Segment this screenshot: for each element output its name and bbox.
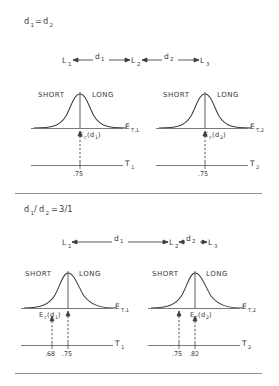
route-node-l3-base: L — [200, 56, 205, 65]
section-equal: d 1 = d 2 L 1 d 1 L 2 d 2 — [24, 16, 264, 178]
route-node-l1-base: L — [62, 56, 67, 65]
peak-annotation — [66, 311, 70, 342]
criterion-label-close: ) — [98, 131, 101, 139]
category-short-label: SHORT — [25, 270, 52, 278]
route-node-l3-sub: 3 — [206, 61, 209, 67]
condition-d2-sub: 2 — [46, 210, 50, 216]
route-segment-d1-arrowhead-left — [73, 58, 78, 62]
route-segment-d1-arrowhead-right — [163, 240, 168, 244]
expected-time-axis-label-sub: T,1 — [120, 307, 129, 313]
category-short-label: SHORT — [163, 91, 190, 99]
condition-operator: = — [51, 204, 58, 214]
criterion-annotation: E c ( d 1 ) — [39, 311, 61, 342]
route-node-l3-base: L — [208, 238, 213, 247]
criterion-annotation: E c ( d 1 ) — [78, 131, 101, 162]
panel-unequal-left: SHORT LONG E T,1 E c ( d 1 ) — [21, 270, 129, 358]
route-segment-d1-base: d — [95, 52, 100, 61]
panel-unequal-right: SHORT LONG E T,2 E c ( d 2 ) — [148, 270, 256, 358]
time-axis-label-base: T — [249, 159, 255, 168]
route-diagram-equal: L 1 d 1 L 2 d 2 L 3 — [62, 52, 209, 67]
criterion-label-close: ) — [223, 131, 226, 139]
condition-operator: = — [35, 16, 42, 26]
time-axis-tick-label-first: .75 — [172, 350, 182, 358]
expected-time-axis-label-sub: T,1 — [130, 127, 139, 133]
route-segment-d1-sub: 1 — [101, 56, 104, 62]
route-segment-d2-arrowhead-right — [202, 240, 207, 244]
condition-d2-base: d — [43, 16, 48, 26]
condition-d2-sub: 2 — [50, 22, 54, 28]
category-long-label: LONG — [92, 91, 114, 99]
criterion-label-e: E — [39, 311, 43, 319]
category-long-label: LONG — [206, 270, 228, 278]
route-segment-d1-base: d — [114, 234, 119, 243]
panel-equal-left: SHORT LONG E T,1 E c ( d 1 ) .75 T 1 — [31, 91, 139, 178]
condition-slash: / — [34, 204, 37, 214]
peak-arrowhead — [66, 311, 70, 316]
route-segment-d2-base: d — [164, 52, 169, 61]
criterion-label-close: ) — [209, 311, 212, 319]
condition-d2-base: d — [39, 204, 44, 214]
time-axis-label-base: T — [124, 159, 130, 168]
category-short-label: SHORT — [152, 270, 179, 278]
time-axis-tick-label-second: .75 — [62, 350, 72, 358]
section-unequal: d 1 / d 2 = 3/1 L 1 d 1 L 2 d 2 L 3 — [21, 204, 256, 358]
criterion-label-arg-base: d — [201, 311, 205, 319]
expected-time-axis-label-base: E — [250, 122, 255, 131]
category-long-label: LONG — [217, 91, 239, 99]
criterion-label-arg-base: d — [215, 131, 219, 139]
time-axis-tick-label-second: .82 — [189, 350, 199, 358]
figure-svg: d 1 = d 2 L 1 d 1 L 2 d 2 — [0, 0, 279, 386]
time-axis-label-base: T — [114, 339, 120, 348]
expected-time-axis-label-base: E — [125, 122, 130, 131]
time-axis-label-base: T — [241, 339, 247, 348]
panel-equal-right: SHORT LONG E T,2 E c ( d 2 ) .75 T 2 — [156, 91, 264, 178]
route-node-l2-base: L — [169, 238, 174, 247]
time-axis-tick-label-first: .68 — [45, 350, 55, 358]
condition-d1-sub: 1 — [31, 22, 35, 28]
condition-label-unequal: d 1 / d 2 = 3/1 — [24, 204, 73, 216]
criterion-label-arg-base: d — [90, 131, 94, 139]
criterion-label-close: ) — [58, 311, 61, 319]
time-axis-label-sub: 1 — [131, 164, 134, 170]
route-node-l1-sub: 1 — [68, 243, 71, 249]
criterion-annotation: E c ( d 2 ) — [190, 311, 212, 342]
time-axis-tick-label: .75 — [73, 170, 83, 178]
reference-annotation — [177, 311, 181, 342]
route-segment-d2-sub: 2 — [170, 56, 173, 62]
route-segment-d2-arrowhead-left — [142, 58, 147, 62]
reference-arrowhead — [177, 311, 181, 316]
condition-d1-base: d — [24, 204, 29, 214]
time-axis-label-sub: 1 — [121, 344, 124, 350]
time-axis-tick-label: .75 — [198, 170, 208, 178]
expected-time-axis-label-base: E — [115, 302, 120, 311]
route-node-l1-sub: 1 — [68, 61, 71, 67]
route-node-l2-base: L — [131, 56, 136, 65]
expected-time-axis-label-base: E — [242, 302, 247, 311]
expected-time-axis-label-sub: T,2 — [255, 127, 264, 133]
route-segment-d2-arrowhead-right — [194, 58, 199, 62]
expected-time-axis-label-sub: T,2 — [247, 307, 256, 313]
route-diagram-unequal: L 1 d 1 L 2 d 2 L 3 — [62, 234, 217, 249]
time-axis-label-sub: 2 — [248, 344, 251, 350]
condition-label-equal: d 1 = d 2 — [24, 16, 53, 28]
category-short-label: SHORT — [38, 91, 65, 99]
category-long-label: LONG — [79, 270, 101, 278]
route-segment-d1-sub: 1 — [120, 238, 123, 244]
condition-d1-base: d — [24, 16, 29, 26]
route-segment-d2-arrowhead-left — [179, 240, 184, 244]
route-node-l1-base: L — [62, 238, 67, 247]
route-segment-d2-base: d — [186, 234, 191, 243]
criterion-annotation: E c ( d 2 ) — [203, 131, 226, 162]
condition-ratio-value: 3/1 — [59, 204, 73, 214]
route-node-l3-sub: 3 — [214, 243, 217, 249]
route-node-l2-sub: 2 — [175, 243, 178, 249]
route-segment-d2-sub: 2 — [192, 238, 195, 244]
time-axis-label-sub: 2 — [256, 164, 259, 170]
route-node-l2-sub: 2 — [137, 61, 140, 67]
distribution-curve — [24, 273, 116, 308]
distribution-curve — [151, 273, 243, 308]
route-segment-d1-arrowhead-right — [125, 58, 130, 62]
figure-canvas: d 1 = d 2 L 1 d 1 L 2 d 2 — [0, 0, 279, 386]
criterion-label-e: E — [190, 311, 194, 319]
route-segment-d1-arrowhead-left — [72, 240, 77, 244]
